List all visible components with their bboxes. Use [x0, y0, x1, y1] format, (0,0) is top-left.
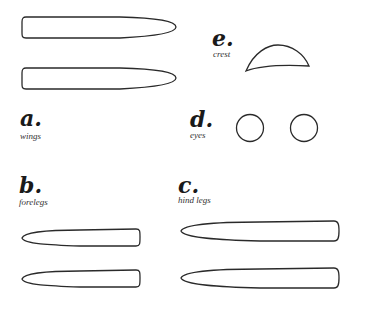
label-letter-e: e.	[212, 27, 234, 49]
label-caption-forelegs: forelegs	[19, 198, 48, 207]
label-caption-wings: wings	[20, 132, 41, 141]
wing-shape-bottom	[22, 68, 176, 89]
hind-leg-shape-bottom	[181, 268, 339, 288]
crest-shape	[246, 45, 309, 71]
label-caption-crest: crest	[213, 50, 230, 59]
hind-leg-shape-top	[181, 221, 339, 241]
foreleg-shape-bottom	[22, 270, 140, 287]
label-letter-a: a.	[20, 107, 42, 129]
label-letter-c: c.	[178, 174, 199, 196]
label-caption-hind-legs: hind legs	[178, 196, 211, 205]
foreleg-shape-top	[22, 229, 140, 246]
parts-diagram	[0, 0, 379, 333]
label-letter-b: b.	[19, 174, 42, 196]
wing-shape-top	[22, 17, 176, 38]
label-letter-d: d.	[190, 108, 213, 130]
label-caption-eyes: eyes	[190, 131, 206, 140]
eye-circle-left	[237, 115, 264, 142]
eye-circle-right	[291, 115, 318, 142]
